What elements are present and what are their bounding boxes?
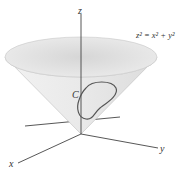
x-axis-label: x [8, 158, 14, 169]
z-axis-label: z [77, 5, 82, 16]
x-axis [18, 134, 81, 163]
equation-label: z² = x² + y² [135, 30, 175, 40]
cone-diagram: z y x C z² = x² + y² [0, 0, 196, 178]
y-axis-label: y [159, 143, 165, 154]
y-axis [81, 134, 158, 148]
curve-label: C [72, 89, 79, 100]
